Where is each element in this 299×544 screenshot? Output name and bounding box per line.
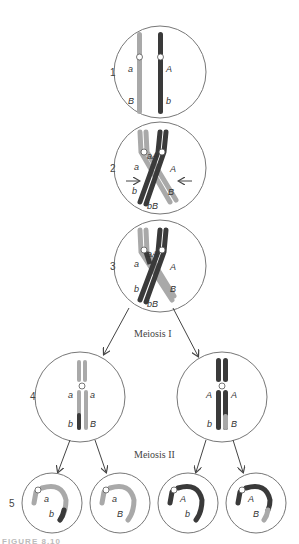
allele-label: B	[90, 419, 96, 429]
allele-label: b	[166, 96, 171, 106]
allele-label: A	[179, 494, 186, 504]
allele-label: b	[49, 509, 54, 519]
allele-label: a	[134, 259, 139, 269]
allele-label: B	[128, 96, 134, 106]
allele-label: a	[134, 162, 139, 172]
arrow-icon	[173, 308, 198, 356]
allele-label: aA	[147, 249, 158, 259]
allele-label: A	[247, 494, 254, 504]
allele-label: b	[68, 419, 73, 429]
allele-label: A	[169, 164, 176, 174]
arrow-icon	[95, 440, 106, 472]
step-1-cell: a A B b	[114, 26, 206, 118]
allele-label: B	[253, 509, 259, 519]
allele-label: B	[231, 419, 237, 429]
allele-label: b	[185, 509, 190, 519]
step-number: 3	[110, 261, 116, 272]
allele-label: a	[68, 390, 73, 400]
dark-chromosome	[158, 32, 163, 114]
allele-label: A	[205, 390, 212, 400]
step-5-cell-4: A B	[226, 473, 286, 533]
allele-label: a	[90, 390, 95, 400]
step-4-left-cell: a a b B	[35, 352, 125, 442]
light-chromosome	[137, 32, 142, 114]
step-number: 1	[110, 67, 116, 78]
allele-label: B	[117, 509, 123, 519]
step-5-cell-2: a B	[90, 473, 150, 533]
allele-label: b	[207, 419, 212, 429]
meiosis-crossing-over-diagram: a A B b 1 aA a A b B bB 2 aA a A b	[0, 0, 299, 544]
step-5-cell-3: A b	[158, 473, 218, 533]
step-4-right-cell: A A b B	[177, 352, 267, 442]
step-number: 2	[110, 163, 116, 174]
allele-label: A	[169, 262, 176, 272]
allele-label: A	[230, 390, 237, 400]
step-number: 5	[9, 498, 15, 509]
step-2-cell: aA a A b B bB	[114, 122, 206, 214]
stage-label-meiosis-2: Meiosis II	[134, 449, 175, 460]
allele-label: a	[44, 494, 49, 504]
allele-label: a	[112, 494, 117, 504]
arrow-icon	[233, 440, 243, 472]
step-number: 4	[30, 391, 36, 402]
allele-label: b	[134, 284, 139, 294]
stage-label-meiosis-1: Meiosis I	[134, 328, 172, 339]
allele-label: aA	[147, 151, 158, 161]
arrow-icon	[196, 440, 206, 472]
allele-label: a	[128, 64, 133, 74]
allele-label: bB	[147, 201, 158, 211]
allele-label: B	[168, 187, 174, 197]
step-5-cell-1: a b	[22, 473, 82, 533]
allele-label: b	[132, 186, 137, 196]
allele-label: bB	[147, 299, 158, 309]
allele-label: A	[165, 64, 172, 74]
arrow-icon	[58, 440, 70, 472]
step-3-cell: aA a A b B bB	[114, 220, 206, 312]
figure-caption: FIGURE 8.10	[2, 537, 61, 544]
allele-label: B	[170, 284, 176, 294]
centromere	[137, 54, 143, 60]
centromere	[158, 54, 164, 60]
arrow-icon	[104, 308, 129, 354]
